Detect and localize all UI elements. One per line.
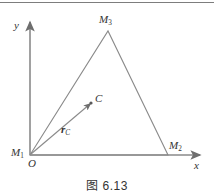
label-x-axis: x xyxy=(194,160,199,171)
label-point-C: C xyxy=(95,93,102,104)
point-C-marker xyxy=(89,101,92,104)
label-point-M1: M1 xyxy=(11,147,24,160)
figure-caption: 图 6.13 xyxy=(0,176,214,193)
label-origin: O xyxy=(28,158,36,169)
label-y-axis: y xyxy=(14,20,19,31)
label-point-M2: M2 xyxy=(169,140,182,153)
figure-container: M3 C rC M1 O M2 x y 图 6.13 xyxy=(0,0,214,196)
label-point-M3: M3 xyxy=(99,14,112,27)
label-vector-rc: rC xyxy=(61,124,70,137)
